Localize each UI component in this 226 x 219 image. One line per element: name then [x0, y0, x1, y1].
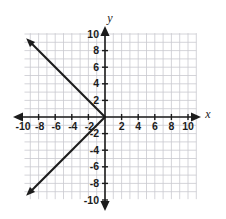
y-tick-label: 8: [93, 44, 99, 56]
grid-lines: [24, 33, 196, 199]
y-tick-label: 4: [93, 77, 99, 89]
x-axis-label: x: [204, 107, 211, 121]
y-tick-label: -6: [90, 160, 99, 172]
x-tick-label: -10: [15, 120, 30, 132]
x-tick-label: -6: [52, 120, 61, 132]
x-tick-label: 8: [168, 120, 174, 132]
x-tick-label: -8: [35, 120, 44, 132]
y-axis-bottom-arrowhead: [100, 201, 109, 211]
y-tick-label: -2: [90, 127, 99, 139]
x-tick-label: -4: [68, 120, 77, 132]
y-tick-label: 10: [87, 28, 99, 40]
y-tick-label: 6: [93, 61, 99, 73]
coordinate-plane-figure: -10-8-6-4-2246810108642-2-4-6-8-10 x y: [0, 0, 226, 219]
x-tick-label: 10: [182, 120, 194, 132]
y-tick-label: -8: [90, 177, 99, 189]
x-tick-label: 2: [119, 120, 125, 132]
x-tick-label: 6: [152, 120, 158, 132]
y-axis-label: y: [106, 11, 113, 25]
y-tick-label: 2: [93, 94, 99, 106]
y-tick-label: -10: [84, 194, 99, 206]
x-tick-label: 4: [135, 120, 141, 132]
graph-canvas: -10-8-6-4-2246810108642-2-4-6-8-10 x y: [0, 0, 226, 219]
y-tick-label: -4: [90, 144, 99, 156]
